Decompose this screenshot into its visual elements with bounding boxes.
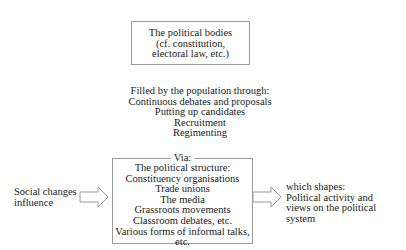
- structure-item-5: Classroom debates, etc.: [113, 216, 252, 227]
- structure-item-6: Various forms of informal talks, etc.: [113, 227, 252, 248]
- filled-by-population-text: Filled by the population through: Contin…: [100, 86, 300, 139]
- political-bodies-box: The political bodies (cf. constitution, …: [131, 21, 250, 65]
- structure-heading: The political structure:: [113, 163, 252, 174]
- input-arrow-icon: [80, 186, 110, 208]
- political-bodies-line-3: electoral law, etc.): [132, 49, 249, 60]
- filled-by-heading: Filled by the population through:: [100, 86, 300, 97]
- via-label: Via:: [171, 153, 194, 164]
- political-structure-box: Via: The political structure: Constituen…: [112, 158, 253, 244]
- political-bodies-text: The political bodies (cf. constitution, …: [132, 22, 249, 60]
- which-shapes-line-3: views on the political system: [286, 203, 406, 224]
- filled-by-item-4: Regimenting: [100, 128, 300, 139]
- political-structure-text: The political structure: Constituency or…: [113, 159, 252, 248]
- political-bodies-line-1: The political bodies: [132, 28, 249, 39]
- which-shapes-line-1: which shapes:: [286, 182, 406, 193]
- output-arrow-icon: [253, 186, 283, 208]
- which-shapes-text: which shapes: Political activity and vie…: [286, 182, 406, 224]
